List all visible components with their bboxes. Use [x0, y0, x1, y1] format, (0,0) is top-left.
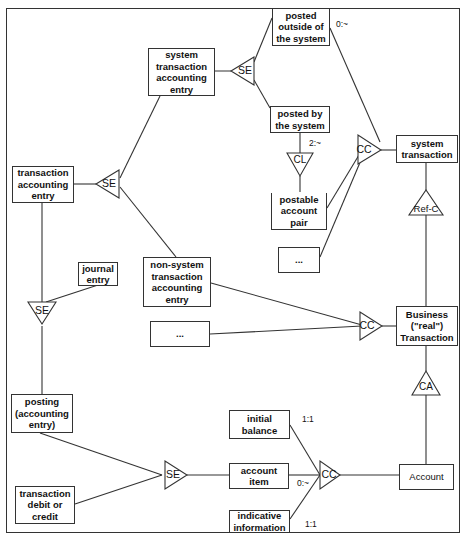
- cc-middle-label: CC: [357, 319, 377, 331]
- se-bottom-label: SE: [163, 468, 183, 480]
- connector-lines: [0, 0, 469, 543]
- cl-label: CL: [290, 154, 310, 165]
- entity-system-transaction-accounting-entry[interactable]: system transaction accounting entry: [148, 48, 215, 96]
- entity-initial-balance[interactable]: initial balance: [229, 410, 290, 439]
- entity-journal-entry[interactable]: journal entry: [78, 262, 118, 286]
- entity-indicative-information[interactable]: indicative information: [229, 510, 290, 533]
- entity-business-transaction[interactable]: Business ("real") Transaction: [396, 306, 458, 346]
- entity-ellipsis-top[interactable]: ...: [278, 247, 320, 273]
- entity-ellipsis-middle[interactable]: ...: [150, 321, 210, 347]
- entity-posting[interactable]: posting (accounting entry): [11, 394, 73, 433]
- se-left-label: SE: [99, 177, 119, 189]
- entity-account-item[interactable]: account item: [229, 463, 289, 489]
- entity-account[interactable]: Account: [399, 464, 454, 490]
- entity-posted-outside[interactable]: posted outside of the system: [272, 8, 330, 46]
- cardinality-indicative-information: 1:1: [305, 519, 317, 529]
- cc-bottom-label: CC: [319, 468, 339, 480]
- entity-transaction-debit-or-credit[interactable]: transaction debit or credit: [15, 486, 75, 524]
- cc-top-label: CC: [354, 143, 374, 155]
- se-top-label: SE: [235, 64, 255, 76]
- se-journal-label: SE: [32, 304, 52, 316]
- ca-label: CA: [416, 381, 436, 392]
- entity-non-system-transaction-accounting-entry[interactable]: non-system transaction accounting entry: [143, 257, 211, 307]
- cardinality-initial-balance: 1:1: [302, 414, 314, 424]
- cardinality-outside-cc: 0:~: [336, 19, 348, 29]
- entity-transaction-accounting-entry[interactable]: transaction accounting entry: [12, 166, 74, 203]
- entity-posted-by-system[interactable]: posted by the system: [270, 106, 330, 133]
- cardinality-posted-by-cl: 2:~: [309, 138, 321, 148]
- cardinality-account-item: 0:~: [297, 478, 309, 488]
- ref-c-label: Ref-C: [405, 203, 447, 214]
- entity-postable-account-pair[interactable]: postable account pair: [271, 193, 327, 230]
- er-diagram: SE SE SE CC CL Ref-C CC CA SE CC posted …: [0, 0, 469, 543]
- entity-system-transaction[interactable]: system transaction: [396, 135, 458, 163]
